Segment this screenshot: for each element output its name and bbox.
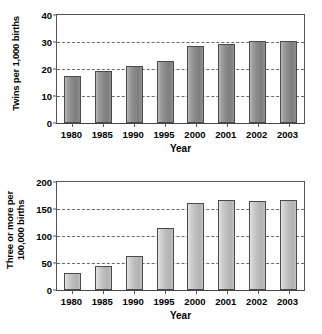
bar xyxy=(187,203,204,290)
bar xyxy=(157,61,174,123)
x-axis-title-three-or-more: Year xyxy=(56,310,305,321)
x-axis-tick-label: 1980 xyxy=(61,129,82,140)
x-axis-tick-label: 2003 xyxy=(277,296,298,307)
x-axis-ticks-twins: 19801985199019952000200120022003 xyxy=(56,128,305,140)
y-axis-tick-label: 0 xyxy=(47,118,52,129)
x-axis-tick-mark xyxy=(134,123,135,127)
x-axis-tick-mark xyxy=(196,123,197,127)
x-axis-tick-mark xyxy=(227,123,228,127)
x-axis-tick-label: 1995 xyxy=(153,296,174,307)
x-axis-tick-label: 2000 xyxy=(184,296,205,307)
bars-three-or-more xyxy=(57,182,304,290)
y-axis-tick-label: 40 xyxy=(41,10,52,21)
bar xyxy=(126,256,143,290)
x-axis-tick-mark xyxy=(196,290,197,294)
x-axis-tick-mark xyxy=(289,123,290,127)
x-axis-tick-mark xyxy=(103,290,104,294)
y-axis-tick-label: 10 xyxy=(41,91,52,102)
y-axis-tick-label: 100 xyxy=(36,231,52,242)
x-axis-title-twins: Year xyxy=(56,143,305,154)
plot-area-three-or-more: 050100150200 xyxy=(56,181,305,291)
bar xyxy=(218,44,235,123)
x-axis-tick-label: 2002 xyxy=(246,296,267,307)
y-axis-title-three-or-more: Three or more per 100,000 births xyxy=(0,167,30,293)
x-axis-tick-mark xyxy=(258,290,259,294)
x-axis-tick-label: 2000 xyxy=(184,129,205,140)
y-axis-tick-label: 0 xyxy=(47,285,52,296)
x-axis-tick-mark xyxy=(72,290,73,294)
x-axis-tick-label: 1980 xyxy=(61,296,82,307)
y-axis-tick-label: 50 xyxy=(41,258,52,269)
y-axis-title-line-2: 100,000 births xyxy=(15,191,26,269)
bar xyxy=(64,76,81,123)
x-axis-tick-label: 1990 xyxy=(123,129,144,140)
x-axis-tick-mark xyxy=(258,123,259,127)
x-axis-tick-label: 1995 xyxy=(153,129,174,140)
twins-bar-chart: Twins per 1,000 births 010203040 1980198… xyxy=(0,0,322,167)
bar xyxy=(218,200,235,290)
plot-area-twins: 010203040 xyxy=(56,14,305,124)
bar xyxy=(95,266,112,290)
x-axis-tick-mark xyxy=(165,290,166,294)
x-axis-tick-label: 2002 xyxy=(246,129,267,140)
bar xyxy=(157,228,174,290)
x-axis-tick-mark xyxy=(103,123,104,127)
y-axis-title-line-1: Twins per 1,000 births xyxy=(10,16,21,111)
x-axis-tick-label: 1985 xyxy=(92,296,113,307)
bar xyxy=(249,201,266,290)
bars-twins xyxy=(57,15,304,123)
three-or-more-bar-chart: Three or more per 100,000 births 0501001… xyxy=(0,167,322,334)
x-axis-tick-mark xyxy=(165,123,166,127)
bar xyxy=(249,41,266,123)
y-axis-title-twins: Twins per 1,000 births xyxy=(0,0,30,126)
x-axis-tick-mark xyxy=(227,290,228,294)
x-axis-tick-mark xyxy=(134,290,135,294)
x-axis-ticks-three-or-more: 19801985199019952000200120022003 xyxy=(56,295,305,307)
bar xyxy=(126,66,143,123)
bar xyxy=(280,41,297,123)
x-axis-tick-mark xyxy=(72,123,73,127)
x-axis-tick-label: 2001 xyxy=(215,296,236,307)
bar xyxy=(187,46,204,123)
y-axis-title-line-1: Three or more per xyxy=(4,191,15,269)
x-axis-tick-label: 1985 xyxy=(92,129,113,140)
x-axis-tick-label: 2003 xyxy=(277,129,298,140)
x-axis-tick-label: 1990 xyxy=(123,296,144,307)
y-axis-tick-label: 20 xyxy=(41,64,52,75)
x-axis-tick-mark xyxy=(289,290,290,294)
bar xyxy=(95,71,112,123)
y-axis-tick-label: 30 xyxy=(41,37,52,48)
y-axis-tick-label: 150 xyxy=(36,204,52,215)
bar xyxy=(64,273,81,290)
x-axis-tick-label: 2001 xyxy=(215,129,236,140)
bar xyxy=(280,200,297,290)
y-axis-tick-label: 200 xyxy=(36,177,52,188)
